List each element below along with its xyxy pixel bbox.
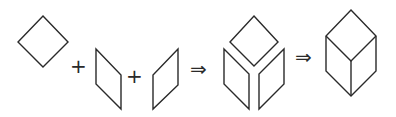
exploded-top-face [230,16,278,66]
top-face-rhombus [18,16,68,67]
plus-operator-1: + [70,54,87,78]
cube-construction-diagram: + + ⇒ ⇒ [0,0,396,117]
right-face-parallelogram [153,49,178,109]
cube-top-inner-edges [326,36,376,61]
exploded-cube [224,16,284,109]
left-face-parallelogram [96,49,121,109]
assembled-cube [326,10,376,96]
implies-arrow-2: ⇒ [295,45,312,69]
plus-operator-2: + [126,64,143,88]
implies-arrow-1: ⇒ [190,57,207,81]
